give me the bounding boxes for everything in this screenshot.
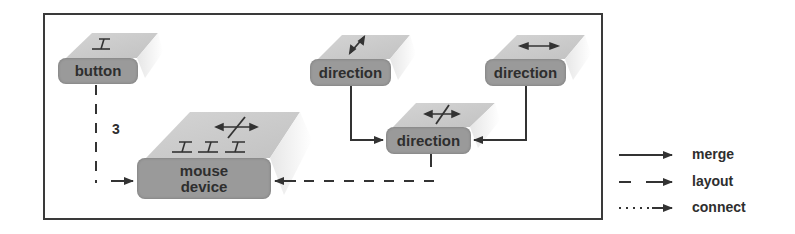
node-direction-combined-label: direction: [386, 127, 471, 154]
direction-label-text: direction: [319, 65, 382, 81]
node-direction-diag-label: direction: [310, 59, 391, 86]
legend-connect-label: connect: [692, 199, 746, 215]
edge-direction-diag-to-combined: [351, 86, 383, 140]
mouse-device-label-line2: device: [181, 179, 228, 195]
node-button-label: button: [58, 58, 138, 84]
node-mouse-device-label: mouse device: [137, 158, 271, 199]
direction-label-text: direction: [494, 65, 557, 81]
direction-label-text: direction: [397, 133, 460, 149]
legend-merge-label: merge: [692, 146, 734, 162]
mouse-device-label-line1: mouse: [180, 163, 228, 179]
legend-layout-label: layout: [692, 173, 733, 189]
node-direction-horiz-label: direction: [485, 59, 566, 86]
edge-count-label: 3: [112, 121, 120, 137]
button-label-text: button: [75, 63, 122, 79]
diagram-canvas: [0, 0, 795, 234]
